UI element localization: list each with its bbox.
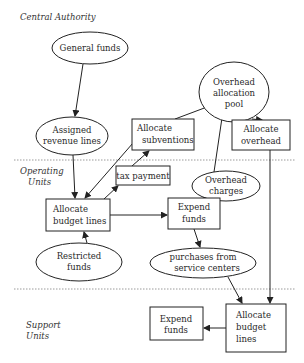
node-label: funds bbox=[182, 214, 206, 224]
tier-label-support-units: Support Units bbox=[26, 320, 61, 341]
node-label: lines bbox=[236, 334, 256, 344]
flow-diagram: Central Authority Operating Units Suppor… bbox=[0, 0, 304, 363]
node-label: subventions bbox=[142, 135, 194, 145]
edge-budget-to-tax bbox=[104, 186, 118, 199]
tier-label-text: Units bbox=[26, 331, 50, 341]
node-expend-funds-operating: Expend funds bbox=[168, 198, 220, 229]
node-label: purchases from bbox=[169, 252, 236, 262]
node-assigned-revenue-lines: Assigned revenue lines bbox=[36, 117, 108, 155]
node-purchases-from-service-centers: purchases from service centers bbox=[150, 248, 256, 278]
node-label: Overhead bbox=[205, 175, 247, 185]
node-label: Overhead bbox=[213, 77, 255, 87]
edge-purchases-to-support-budget bbox=[228, 277, 242, 303]
tier-label-text: Units bbox=[28, 177, 52, 187]
node-overhead-charges: Overhead charges bbox=[192, 171, 260, 201]
node-general-funds: General funds bbox=[52, 32, 128, 64]
edge-expend-to-purchases bbox=[194, 229, 200, 247]
node-overhead-allocation-pool: Overhead allocation pool bbox=[199, 62, 269, 122]
edge-general-to-assigned bbox=[75, 64, 83, 116]
node-label: budget lines bbox=[53, 216, 106, 226]
tier-label-operating-units: Operating Units bbox=[20, 166, 64, 187]
node-label: budget bbox=[236, 322, 267, 332]
node-allocate-budget-lines-support: Allocate budget lines bbox=[226, 304, 286, 352]
node-label: service centers bbox=[174, 263, 240, 273]
edge-assigned-to-budget bbox=[73, 155, 75, 198]
node-label: allocation bbox=[213, 88, 256, 98]
node-expend-funds-support: Expend funds bbox=[150, 307, 203, 340]
node-label: General funds bbox=[60, 43, 121, 53]
node-label: Allocate bbox=[235, 310, 271, 320]
node-allocate-budget-lines-operating: Allocate budget lines bbox=[46, 199, 110, 231]
node-label: tax payment bbox=[116, 171, 170, 181]
node-label: revenue lines bbox=[43, 136, 101, 146]
node-label: Assigned bbox=[52, 125, 93, 135]
node-label: Restricted bbox=[57, 251, 102, 261]
node-tax-payment: tax payment bbox=[116, 166, 170, 185]
node-label: charges bbox=[209, 186, 243, 196]
tier-label-text: Support bbox=[26, 320, 61, 330]
tier-label-central-authority: Central Authority bbox=[20, 12, 96, 22]
node-allocate-subventions: Allocate subventions bbox=[132, 119, 194, 150]
node-label: Allocate bbox=[243, 124, 279, 134]
node-allocate-overhead: Allocate overhead bbox=[232, 120, 290, 150]
edge-tax-to-subventions bbox=[132, 151, 149, 166]
tier-label-text: Operating bbox=[20, 166, 64, 176]
edge-restricted-to-budget bbox=[84, 232, 87, 243]
node-label: Allocate bbox=[52, 204, 88, 214]
node-label: overhead bbox=[241, 136, 282, 146]
node-label: Allocate bbox=[136, 123, 172, 133]
node-label: funds bbox=[164, 325, 188, 335]
node-restricted-funds: Restricted funds bbox=[36, 243, 122, 281]
node-label: Expend bbox=[160, 314, 193, 324]
node-label: funds bbox=[67, 262, 91, 272]
node-label: Expend bbox=[178, 202, 211, 212]
tier-label-text: Central Authority bbox=[20, 12, 96, 22]
node-label: pool bbox=[225, 99, 244, 109]
